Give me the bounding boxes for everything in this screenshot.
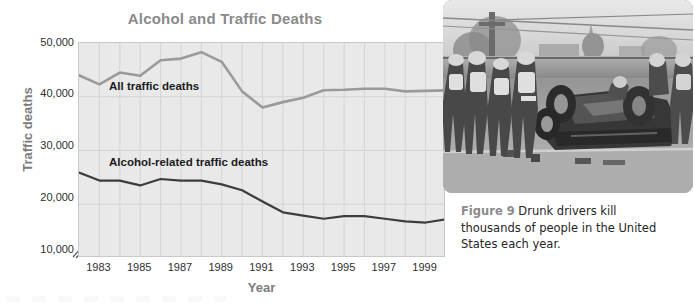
y-tick-label: 40,000 [8,87,74,99]
caption-figure-number: Figure 9 [461,204,515,218]
series-label-all-traffic-deaths: All traffic deaths [109,80,199,92]
x-tick-label: 1987 [160,261,200,273]
figure-caption: Figure 9 Drunk drivers kill thousands of… [461,203,676,253]
x-tick-label: 1999 [405,261,445,273]
x-tick-label: 1989 [201,261,241,273]
x-axis-tick-labels: 1983 1985 1987 1989 1991 1993 1995 1997 … [78,261,445,277]
car-crash-photo [443,0,693,193]
y-axis-tick-labels: 50,000 40,000 30,000 20,000 10,000 [4,0,74,306]
x-axis-title: Year [78,280,445,295]
scan-artifact [6,296,226,302]
y-tick-label: 30,000 [8,139,74,151]
x-tick-label: 1991 [242,261,282,273]
x-tick-label: 1997 [364,261,404,273]
plot-area: All traffic deaths Alcohol-related traff… [78,42,445,257]
y-tick-label: 20,000 [8,191,74,203]
x-tick-label: 1983 [78,261,118,273]
x-tick-label: 1993 [282,261,322,273]
y-tick-label: 10,000 [8,243,74,255]
series-label-alcohol-related-traffic-deaths: Alcohol-related traffic deaths [109,156,268,168]
y-tick-label: 50,000 [8,36,74,48]
x-tick-label: 1995 [323,261,363,273]
figure-alcohol-and-traffic-deaths: Alcohol and Traffic Deaths Traffic death… [0,0,695,306]
x-tick-label: 1985 [119,261,159,273]
